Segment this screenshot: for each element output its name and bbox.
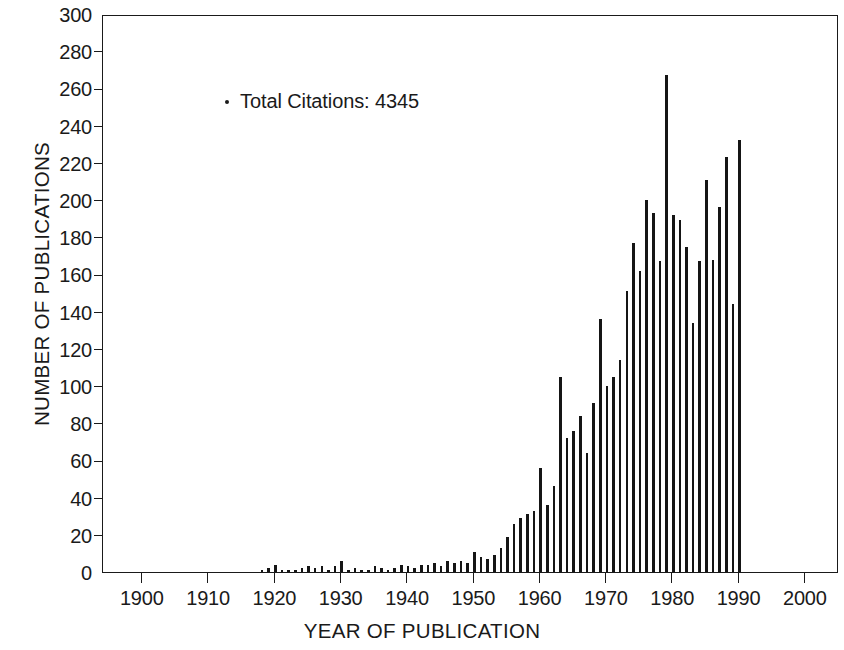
- bar: [427, 565, 430, 572]
- bars-layer: [103, 16, 837, 572]
- bar: [433, 563, 436, 572]
- bar: [685, 247, 688, 573]
- bar: [360, 570, 363, 572]
- bar: [480, 557, 483, 572]
- publications-histogram-figure: NUMBER OF PUBLICATIONS 02040608010012014…: [0, 0, 844, 650]
- total-citations-annotation: Total Citations: 4345: [225, 90, 419, 113]
- bar: [519, 518, 522, 572]
- bar: [652, 213, 655, 572]
- x-axis-tick: [671, 573, 672, 583]
- bar: [705, 180, 708, 572]
- bar: [692, 323, 695, 572]
- bar: [718, 207, 721, 572]
- bar: [533, 511, 536, 572]
- bar: [712, 260, 715, 572]
- bar: [261, 570, 264, 572]
- bar: [626, 291, 629, 572]
- bar: [314, 568, 317, 572]
- bar: [493, 555, 496, 572]
- bar: [420, 565, 423, 572]
- bar: [374, 566, 377, 572]
- bar: [506, 537, 509, 572]
- x-axis-tick: [804, 573, 805, 583]
- bar: [334, 566, 337, 572]
- bar: [592, 403, 595, 572]
- bar: [387, 570, 390, 572]
- y-axis-tick-label: 40: [22, 489, 92, 509]
- x-axis-tick: [340, 573, 341, 583]
- y-axis-tick-label: 0: [22, 563, 92, 583]
- bar: [267, 568, 270, 572]
- y-axis-tick-label: 120: [22, 340, 92, 360]
- bar: [354, 568, 357, 572]
- bar: [400, 565, 403, 572]
- bar: [274, 565, 277, 572]
- bar: [513, 524, 516, 572]
- y-axis-tick-label: 100: [22, 377, 92, 397]
- bar: [665, 75, 668, 572]
- bar: [526, 514, 529, 572]
- annotation-label: Total Citations: 4345: [240, 90, 419, 113]
- bar: [672, 215, 675, 572]
- y-axis-tick-label: 20: [22, 526, 92, 546]
- bar: [566, 438, 569, 572]
- bar: [698, 261, 701, 572]
- bar: [659, 261, 662, 572]
- bar: [619, 360, 622, 572]
- bar: [347, 570, 350, 572]
- bar: [466, 563, 469, 572]
- bar: [294, 570, 297, 572]
- bar: [586, 453, 589, 572]
- bar: [413, 568, 416, 572]
- bar: [546, 505, 549, 572]
- bar: [446, 561, 449, 572]
- x-axis-tick: [473, 573, 474, 583]
- bar: [612, 377, 615, 572]
- x-axis-tick: [207, 573, 208, 583]
- bar: [500, 548, 503, 572]
- bar: [460, 561, 463, 572]
- bar: [679, 220, 682, 572]
- plot-area: Total Citations: 4345: [102, 15, 838, 573]
- x-axis-tick: [738, 573, 739, 583]
- y-axis-tick-label: 300: [22, 5, 92, 25]
- y-axis-tick-label: 200: [22, 191, 92, 211]
- bar: [380, 568, 383, 572]
- bar: [321, 566, 324, 572]
- y-axis-tick-label: 240: [22, 117, 92, 137]
- bar: [639, 271, 642, 572]
- x-axis-tick-label: 2000: [762, 587, 844, 610]
- bar: [732, 304, 735, 572]
- bar: [453, 563, 456, 572]
- bar: [340, 561, 343, 572]
- bar: [645, 200, 648, 572]
- y-axis-tick-label: 180: [22, 228, 92, 248]
- y-axis-tick-label: 80: [22, 414, 92, 434]
- bar: [572, 431, 575, 572]
- y-axis-tick-label: 220: [22, 154, 92, 174]
- bar: [301, 568, 304, 572]
- bar: [327, 570, 330, 572]
- bar: [632, 243, 635, 572]
- x-axis-tick: [141, 573, 142, 583]
- bar: [281, 570, 284, 572]
- dot-marker-icon: [225, 100, 229, 104]
- bar: [725, 157, 728, 572]
- bar: [606, 386, 609, 572]
- x-axis-tick: [539, 573, 540, 583]
- y-axis-tick-label: 140: [22, 303, 92, 323]
- bar: [599, 319, 602, 572]
- bar: [579, 416, 582, 572]
- bar: [393, 568, 396, 572]
- y-axis-tick-label: 260: [22, 79, 92, 99]
- y-axis-tick-label: 60: [22, 451, 92, 471]
- x-axis-tick: [605, 573, 606, 583]
- bar: [307, 566, 310, 572]
- bar: [407, 566, 410, 572]
- x-axis-tick: [406, 573, 407, 583]
- bar: [738, 140, 741, 572]
- bar: [559, 377, 562, 572]
- bar: [440, 566, 443, 572]
- x-axis-title: YEAR OF PUBLICATION: [0, 619, 844, 643]
- x-axis-tick: [274, 573, 275, 583]
